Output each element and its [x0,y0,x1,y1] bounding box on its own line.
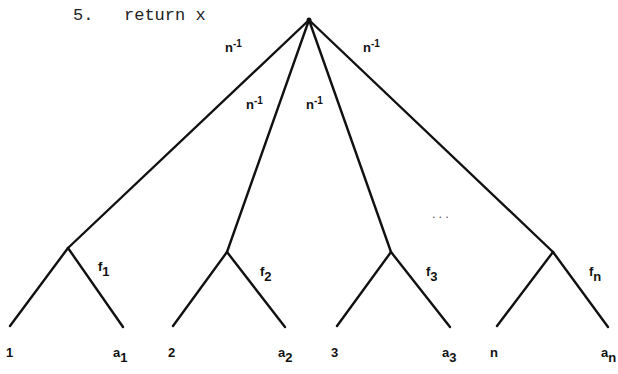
edge-label-f2: f2 [260,265,272,283]
edge-label-root-n: n-1 [363,39,380,54]
edge-node-3-left [337,252,391,326]
edge-node-2-left [173,252,227,326]
edge-root-to-node-3 [309,20,391,252]
ellipsis: ... [432,206,452,221]
edge-node-1-right [68,248,123,327]
edge-root-to-node-1 [68,20,309,248]
label-subscript: 2 [285,350,292,365]
label-subscript: 3 [430,269,437,284]
edge-label-root-3: n-1 [306,96,323,111]
label-exponent: -1 [233,38,242,49]
code-line: 5. return x [73,7,206,24]
label-base: n [225,40,233,55]
label-subscript: n [608,350,616,365]
leaf-label-a3: a3 [442,346,456,364]
code-line-number: 5. [73,6,93,25]
label-subscript: 3 [449,350,456,365]
edge-label-root-2: n-1 [246,96,263,111]
leaf-label-2: 2 [168,346,175,359]
edge-node-1-left [10,248,68,326]
edge-node-3-right [391,252,450,327]
label-base: n [363,40,371,55]
edge-label-root-1: n-1 [225,39,242,54]
edge-root-to-node-2 [227,20,309,252]
edge-label-f3: f3 [426,265,438,283]
label-subscript: 1 [102,264,109,279]
leaf-label-3: 3 [331,346,338,359]
label-exponent: -1 [371,38,380,49]
edge-label-fn: fn [589,265,601,283]
leaf-label-a2: a2 [278,346,292,364]
edge-node-n-left [497,252,553,326]
leaf-label-an: an [601,346,616,364]
label-exponent: -1 [314,95,323,106]
code-line-text: return x [124,6,206,25]
label-base: n [246,97,254,112]
label-exponent: -1 [254,95,263,106]
tree-edges [0,0,618,374]
tree-diagram: 5. return x n-1 n-1 n-1 n-1 f1 f2 f3 fn … [0,0,618,374]
edge-node-n-right [553,252,608,327]
label-subscript: 1 [120,350,127,365]
leaf-label-n: n [490,346,498,359]
label-base: n [306,97,314,112]
edge-root-to-node-n [309,20,553,252]
leaf-label-1: 1 [6,346,13,359]
label-subscript: n [593,269,601,284]
leaf-label-a1: a1 [113,346,127,364]
label-subscript: 2 [264,269,271,284]
edge-node-2-right [227,252,285,327]
root-node [307,18,312,23]
edge-label-f1: f1 [98,260,110,278]
